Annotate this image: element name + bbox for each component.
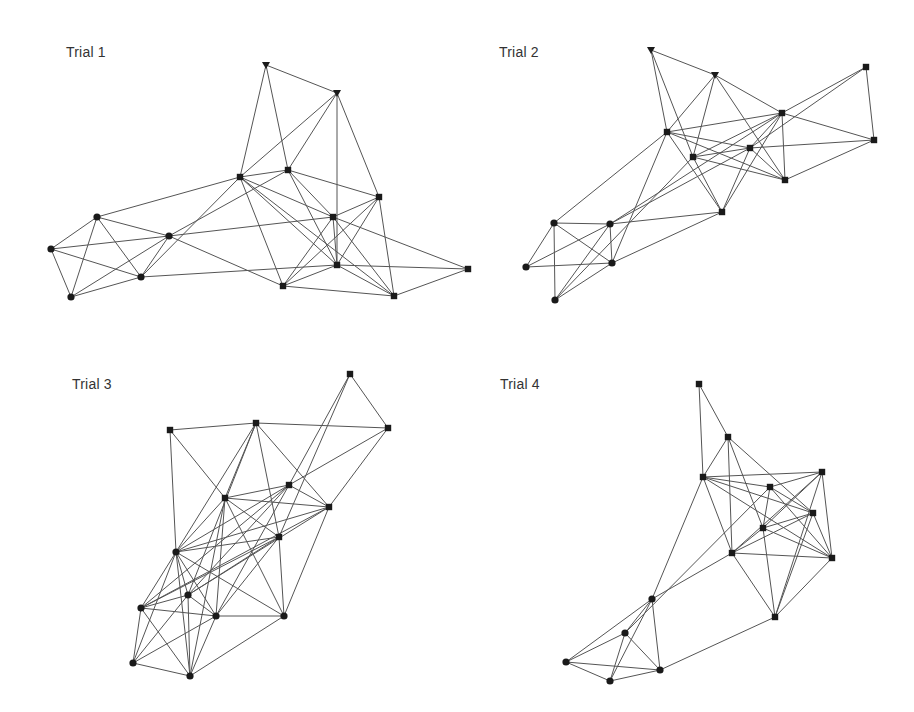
edge [703,477,732,553]
edge [782,113,785,180]
edge [176,507,329,552]
edge [651,50,693,157]
edge [71,217,97,297]
edge [566,599,652,662]
edge [715,75,782,113]
circle-node [280,612,287,619]
square-node [334,262,340,268]
edge [97,177,240,217]
edge [266,65,288,170]
edge [279,537,284,616]
edge [728,437,763,528]
edge [51,249,71,297]
edge [782,113,874,140]
edge [715,75,785,180]
edge [660,617,775,670]
edge [329,428,388,507]
edge [770,487,832,558]
edge [97,217,141,277]
circle-node [137,273,144,280]
circle-node [606,677,613,684]
circle-node [656,666,663,673]
edge [394,269,468,296]
square-node [772,614,778,620]
edge [651,50,667,132]
edge [667,132,722,212]
edge [216,537,279,616]
square-node [700,474,706,480]
edge [610,670,660,681]
edge [288,93,337,170]
edge [732,553,775,617]
square-node [286,482,292,488]
square-node [767,484,773,490]
square-node [222,495,228,501]
edge [288,170,379,197]
panel-trial-4 [562,381,835,685]
edge [750,67,866,148]
square-node [725,434,731,440]
edges [51,65,468,297]
edges [566,384,832,681]
edge [652,553,732,599]
edge [554,223,610,224]
edge [703,437,728,477]
edge [699,384,728,437]
panel-trial-2 [522,47,877,304]
square-node [253,420,259,426]
square-node [810,510,816,516]
edge [379,197,394,296]
circle-node [172,548,179,555]
square-node [326,504,332,510]
edge [141,608,190,676]
square-node [391,293,397,299]
circle-node [129,659,136,666]
edge [97,217,169,236]
square-node [330,214,336,220]
edge [555,224,610,300]
edge [526,223,554,267]
edge [170,423,256,430]
square-node [347,371,353,377]
square-node [664,129,670,135]
square-node [276,534,282,540]
circle-node [137,604,144,611]
edge [763,528,775,617]
edge [333,197,379,217]
square-node [696,381,702,387]
square-node [819,469,825,475]
edge [651,50,715,75]
edges [526,50,874,300]
panel-title-trial-1: Trial 1 [66,44,106,60]
edge [555,263,612,300]
edge [240,65,266,177]
circle-node [562,658,569,665]
edge [170,430,176,552]
nodes [129,371,391,680]
circle-node [606,220,613,227]
circle-node [212,612,219,619]
square-node [285,167,291,173]
edge [610,148,750,224]
square-node [779,110,785,116]
edge [554,132,667,223]
circle-node [165,232,172,239]
edge [176,423,256,552]
edge [703,472,822,477]
nodes [47,62,471,301]
edges [133,374,388,676]
edge [188,423,256,595]
circle-node [67,293,74,300]
edge [554,223,555,300]
edge [284,507,329,616]
square-node [729,550,735,556]
edge [256,423,388,428]
edge [667,113,782,132]
edge [866,67,874,140]
edge [51,249,141,277]
edge [240,177,337,265]
circle-node [186,672,193,679]
edge [732,553,832,558]
edge [699,384,703,477]
edge [667,132,785,180]
